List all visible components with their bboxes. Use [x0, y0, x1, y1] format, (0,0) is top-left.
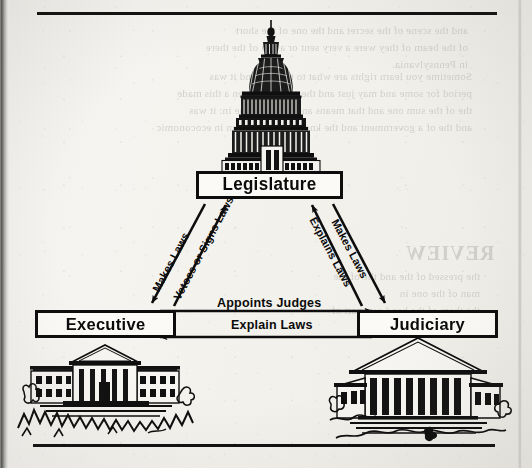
scanned-page: and the scene of the secret and the one … — [0, 0, 532, 468]
page-right-edge — [518, 0, 522, 468]
page-gutter-shadow — [0, 0, 9, 468]
scan-vignette — [0, 0, 532, 468]
